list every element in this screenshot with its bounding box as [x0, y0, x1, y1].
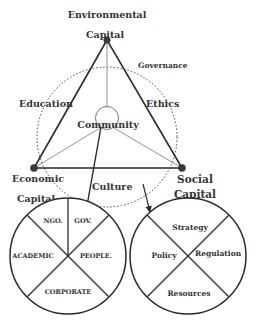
label-culture: Culture — [92, 181, 132, 192]
sector-resources: Resources — [167, 289, 210, 298]
label-community: Community — [77, 119, 139, 130]
sector-gov: GOV. — [74, 217, 91, 225]
node-social — [178, 164, 186, 172]
sector-academic: ACADEMIC — [11, 252, 53, 260]
label-education: Education — [19, 98, 73, 109]
sector-regulation: Regulation — [195, 249, 242, 258]
spoke-right — [114, 128, 182, 168]
arrow-culture-to-governance — [143, 184, 150, 212]
sector-people: PEOPLE. — [80, 252, 112, 260]
stakeholder-circle: NGO. GOV. ACADEMIC PEOPLE. CORPORATE — [10, 198, 126, 314]
label-environmental-capital: Capital — [86, 29, 125, 40]
label-governance: Governance — [138, 61, 188, 70]
sector-corporate: CORPORATE — [45, 288, 92, 296]
capital-triangle-diagram: Environmental Capital Governance Educati… — [0, 0, 256, 320]
label-social: Social — [177, 173, 213, 185]
node-economic — [30, 164, 38, 172]
spoke-left — [34, 128, 100, 168]
sector-policy: Policy — [151, 251, 177, 260]
label-environmental: Environmental — [68, 9, 147, 20]
sector-ngo: NGO. — [43, 217, 62, 225]
label-ethics: Ethics — [146, 98, 179, 109]
label-economic: Economic — [12, 173, 64, 184]
governance-circle: Strategy Policy Regulation Resources — [130, 198, 246, 314]
sector-strategy: Strategy — [172, 223, 208, 232]
